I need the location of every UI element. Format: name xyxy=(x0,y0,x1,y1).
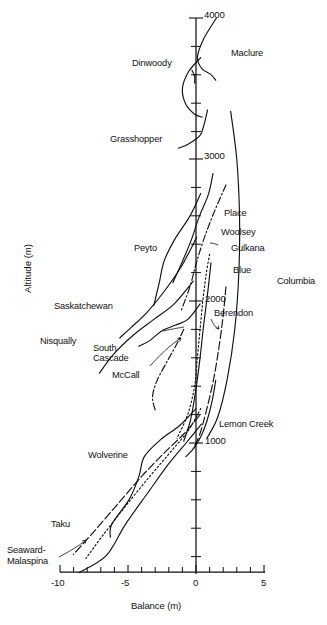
berendon-leader xyxy=(211,319,219,329)
mccall-leader xyxy=(150,338,181,366)
gulkana-leader xyxy=(210,243,218,245)
y-tick-label-1000: 1000 xyxy=(205,436,226,446)
curve-unnamed-lower-1 xyxy=(79,424,201,573)
figure-canvas: 4000 3000 2000 1000 -10 -5 0 5 Balance (… xyxy=(0,0,327,625)
leaders-group xyxy=(59,243,219,557)
label-peyto: Peyto xyxy=(134,243,157,253)
y-axis-title: Altitude (m) xyxy=(22,244,33,293)
label-woolsey: Woolsey xyxy=(221,227,255,237)
label-seaward-line1: Seaward- xyxy=(7,545,46,555)
curve-south-cascade xyxy=(139,304,200,346)
x-axis-title: Balance (m) xyxy=(131,601,181,611)
label-lemon-creek: Lemon Creek xyxy=(219,419,273,429)
label-blue: Blue xyxy=(233,265,251,275)
curve-maclure xyxy=(197,18,216,80)
curve-taku xyxy=(74,416,200,555)
curve-seaward-malaspina xyxy=(86,409,201,559)
label-place: Place xyxy=(224,208,247,218)
label-gulkana: Gulkana xyxy=(231,243,265,253)
x-tick-label-0: 0 xyxy=(193,578,198,588)
label-dinwoody: Dinwoody xyxy=(132,58,172,68)
glacier-balance-plot xyxy=(0,0,327,625)
x-tick-label--10: -10 xyxy=(51,578,64,588)
seaward-leader xyxy=(59,540,86,557)
label-maclure: Maclure xyxy=(231,48,263,58)
axis-group xyxy=(60,18,265,574)
label-mccall: McCall xyxy=(112,370,140,380)
x-minor-ticks xyxy=(74,567,251,572)
label-nisqually: Nisqually xyxy=(40,336,76,346)
label-south-cascade-line2: Cascade xyxy=(93,353,129,363)
y-tick-label-2000: 2000 xyxy=(205,294,226,304)
label-seaward-line2: Malaspina xyxy=(7,556,48,566)
label-south-cascade-line1: South xyxy=(93,343,117,353)
label-columbia: Columbia xyxy=(277,276,315,286)
label-grasshopper: Grasshopper xyxy=(110,134,162,144)
y-tick-label-3000: 3000 xyxy=(204,151,225,161)
curve-peyto xyxy=(154,193,201,305)
curve-dinwoody xyxy=(182,58,202,117)
label-taku: Taku xyxy=(51,519,70,529)
y-tick-label-4000: 4000 xyxy=(204,10,225,20)
x-tick-label--5: -5 xyxy=(121,578,129,588)
curve-grasshopper xyxy=(178,110,207,148)
label-berendon: Berendon xyxy=(214,308,253,318)
label-saskatchewan: Saskatchewan xyxy=(54,301,113,311)
label-wolverine: Wolverine xyxy=(88,450,128,460)
curve-mccall xyxy=(152,329,183,410)
curve-dinwoody-branch xyxy=(192,70,195,83)
x-tick-label-5: 5 xyxy=(261,578,266,588)
